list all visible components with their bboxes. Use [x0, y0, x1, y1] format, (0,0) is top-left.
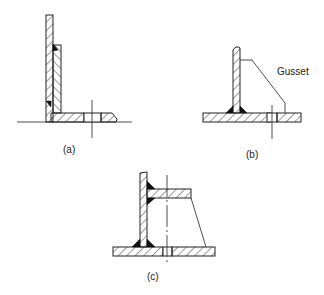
weld-base-right: [147, 239, 155, 247]
weld-base-left: [132, 239, 140, 247]
base-plate-left: [203, 113, 271, 122]
base-plate-left: [113, 247, 163, 256]
weld-left: [226, 106, 233, 113]
vertical-plate: [233, 47, 240, 113]
base-plate-right: [277, 113, 301, 122]
weld-right: [240, 106, 247, 113]
flange-left: [51, 113, 84, 122]
reinforcement-plate: [53, 45, 61, 113]
vertical-plate: [46, 15, 53, 122]
weld-diagram: (a) Gusset (b) (c): [0, 0, 324, 295]
bolt-hole: [84, 113, 101, 122]
upper-plate: [147, 189, 191, 198]
label-c: (c): [147, 271, 159, 282]
base-plate-right: [172, 247, 215, 256]
weld-upper-top: [147, 181, 155, 189]
taper-outline: [191, 198, 206, 247]
panel-b: Gusset (b): [203, 47, 309, 160]
panel-a: (a): [17, 15, 132, 155]
vertical-plate: [140, 172, 147, 247]
bolt-hole: [163, 247, 172, 256]
flange-right: [101, 113, 117, 122]
gusset-label: Gusset: [277, 66, 309, 77]
panel-c: (c): [113, 172, 215, 282]
label-b: (b): [246, 149, 258, 160]
label-a: (a): [63, 144, 75, 155]
weld-upper-bottom: [147, 198, 155, 205]
